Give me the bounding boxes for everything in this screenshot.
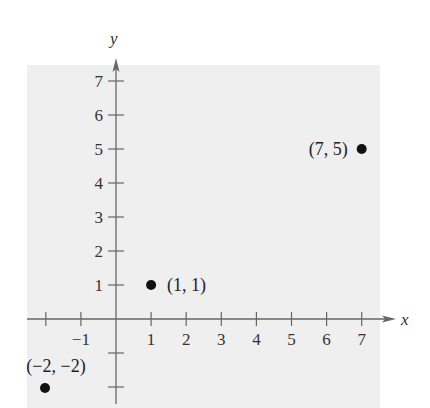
x-tick-label: 7 [357, 330, 366, 349]
x-tick-label: 4 [252, 330, 261, 349]
data-point [146, 280, 156, 290]
data-point [357, 144, 367, 154]
x-axis-label: x [400, 310, 409, 329]
y-tick-label: 1 [95, 276, 104, 295]
y-tick-label: 3 [95, 208, 104, 227]
y-tick-label: 4 [95, 174, 104, 193]
x-tick-label: −1 [72, 330, 90, 349]
data-point [40, 383, 50, 393]
x-tick-label: 5 [287, 330, 296, 349]
y-tick-label: 5 [95, 140, 104, 159]
y-axis-label: y [108, 29, 118, 48]
point-label: (7, 5) [309, 139, 348, 160]
x-tick-label: 3 [217, 330, 226, 349]
x-tick-label: 2 [182, 330, 191, 349]
point-label: (1, 1) [167, 275, 206, 296]
x-tick-label: 6 [322, 330, 331, 349]
y-tick-label: 2 [95, 242, 104, 261]
y-tick-label: 6 [95, 106, 104, 125]
coordinate-plot: xy −112345671234567 (−2, −2)(1, 1)(7, 5) [0, 0, 430, 408]
x-tick-label: 1 [147, 330, 156, 349]
y-tick-label: 7 [95, 72, 104, 91]
point-label: (−2, −2) [26, 356, 85, 377]
